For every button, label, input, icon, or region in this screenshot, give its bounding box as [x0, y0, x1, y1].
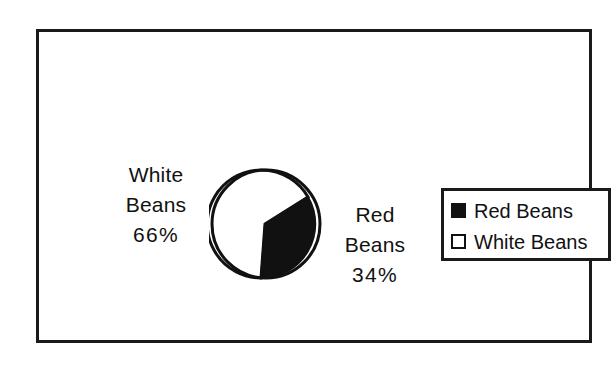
hollow-square-icon: [451, 234, 466, 249]
legend: Red Beans White Beans: [441, 188, 611, 261]
pie-label-red-beans: Red Beans 34%: [327, 200, 423, 290]
pie-label-white-beans: White Beans 66%: [101, 160, 211, 250]
figure-root: White Beans 66% Red Beans 34% Red Beans …: [0, 0, 615, 367]
pie-label-white-beans-line1: White: [101, 160, 211, 190]
legend-label-white-beans: White Beans: [474, 231, 587, 253]
filled-square-icon: [451, 203, 466, 218]
legend-item-red-beans: Red Beans: [451, 195, 608, 226]
legend-item-white-beans: White Beans: [451, 226, 608, 257]
legend-label-red-beans: Red Beans: [474, 200, 573, 222]
pie-chart: [209, 166, 323, 282]
pie-chart-svg: [209, 166, 323, 282]
pie-label-red-beans-line2: Beans: [327, 230, 423, 260]
pie-label-red-beans-percent: 34%: [327, 260, 423, 290]
pie-label-white-beans-percent: 66%: [101, 220, 211, 250]
pie-label-white-beans-line2: Beans: [101, 190, 211, 220]
chart-frame-border: White Beans 66% Red Beans 34% Red Beans …: [36, 29, 592, 343]
pie-label-red-beans-line1: Red: [327, 200, 423, 230]
